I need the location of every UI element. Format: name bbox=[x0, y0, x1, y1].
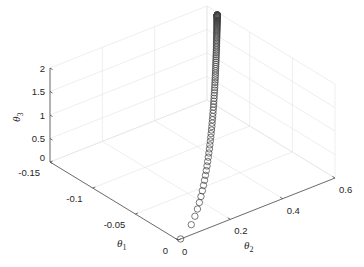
z-tick-label: 1 bbox=[40, 110, 45, 121]
x-tick bbox=[135, 213, 138, 214]
y-tick-label: 0.2 bbox=[234, 225, 247, 236]
grid-line bbox=[155, 121, 283, 199]
x-axis-label: θ1 bbox=[117, 237, 126, 252]
y-tick-label: 0 bbox=[182, 246, 187, 257]
data-marker bbox=[203, 167, 209, 173]
x-tick-label: -0.05 bbox=[104, 219, 126, 230]
grid-line bbox=[207, 6, 335, 84]
x-tick-label: -0.1 bbox=[66, 193, 82, 204]
grid-line bbox=[50, 53, 207, 115]
z-tick bbox=[50, 162, 53, 164]
data-marker bbox=[188, 221, 194, 227]
z-tick-label: 2 bbox=[40, 63, 45, 74]
x-tick bbox=[178, 239, 181, 240]
x-tick-label: -0.15 bbox=[18, 167, 40, 178]
grid-line bbox=[50, 30, 207, 92]
z-axis-label: θ3 bbox=[10, 113, 25, 122]
y-tick bbox=[228, 218, 231, 220]
data-marker bbox=[194, 206, 200, 212]
grid-line bbox=[50, 6, 207, 68]
grid-line bbox=[207, 100, 335, 178]
x-tick-label: 0 bbox=[163, 245, 168, 256]
y-tick-label: 0.6 bbox=[339, 184, 352, 195]
3d-scatter-plot: -0.15-0.1-0.05000.20.40.60.511.520 θ1 θ2… bbox=[0, 0, 364, 267]
y-axis-line bbox=[178, 178, 335, 240]
z-tick-label: 1.5 bbox=[32, 86, 45, 97]
data-marker bbox=[204, 163, 210, 169]
grid-line bbox=[207, 53, 335, 131]
z-tick-label: 0 bbox=[40, 152, 45, 163]
y-tick bbox=[332, 176, 335, 178]
grid-line bbox=[50, 77, 207, 139]
z-tick-label: 0.5 bbox=[32, 133, 45, 144]
grid-line bbox=[50, 100, 207, 162]
y-tick bbox=[280, 197, 283, 199]
data-marker bbox=[192, 213, 198, 219]
tick-labels: -0.15-0.1-0.05000.20.40.60.511.520 bbox=[18, 63, 352, 258]
y-axis-label: θ2 bbox=[244, 239, 253, 254]
data-markers bbox=[177, 12, 220, 243]
grid-line bbox=[207, 30, 335, 108]
x-tick bbox=[93, 187, 96, 188]
grid-line bbox=[93, 126, 250, 188]
y-tick-label: 0.4 bbox=[287, 205, 300, 216]
grid-line bbox=[135, 152, 292, 214]
grid-line bbox=[102, 141, 230, 219]
grid-line bbox=[207, 77, 335, 155]
